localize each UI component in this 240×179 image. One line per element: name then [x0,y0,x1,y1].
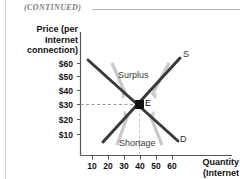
y-axis-title-line-2: Internet [0,35,78,46]
surplus-label: Surplus [118,70,149,80]
x-axis-title-line-2: (Internet [177,168,239,179]
x-tick-label-10: 10 [84,161,100,171]
y-tick-label-20: $20 [33,115,73,125]
supply-demand-chart: Price (per Internet connection) Quantity… [0,0,240,179]
x-tick-label-20: 20 [100,161,116,171]
x-axis-title-line-1: Quantity [177,157,239,168]
y-axis-title-line-3: connection) [0,45,78,56]
demand-curve-label: D [180,134,187,144]
x-tick-label-50: 50 [148,161,164,171]
equilibrium-marker [135,100,144,109]
supply-curve-label: S [183,49,189,59]
figure-page: (CONTINUED) [0,0,240,179]
y-axis-title-line-1: Price (per [0,24,78,35]
y-tick-label-60: $60 [33,59,73,69]
y-tick-label-10: $10 [33,130,73,140]
shortage-label: Shortage [119,138,156,148]
y-tick-label-30: $30 [33,100,73,110]
x-tick-label-30: 30 [116,161,132,171]
x-tick-marks [93,156,173,160]
y-axis-title: Price (per Internet connection) [0,24,78,56]
y-tick-label-40: $40 [33,86,73,96]
x-axis-title: Quantity (Internet [177,157,239,178]
y-tick-label-50: $50 [33,72,73,82]
equilibrium-label: E [145,98,151,108]
x-tick-label-40: 40 [132,161,148,171]
x-tick-label-60: 60 [164,161,180,171]
